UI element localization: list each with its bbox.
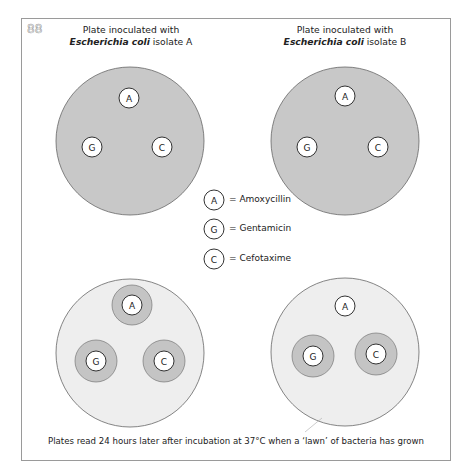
legend-disk-c: C: [204, 249, 224, 269]
legend-disk-a: A: [204, 190, 224, 210]
disk-amoxycillin-no-zone: A: [335, 296, 355, 316]
legend-disk-g: G: [204, 219, 224, 239]
svg-text:A: A: [129, 301, 136, 311]
svg-text:C: C: [375, 143, 381, 153]
svg-text:G: G: [93, 357, 100, 367]
legend-amoxycillin: = Amoxycillin: [229, 194, 291, 204]
plate-a-initial: A G C: [56, 67, 204, 215]
disk-cefotaxime: C: [368, 137, 388, 157]
zone-cefotaxime: C: [355, 333, 397, 375]
disk-gentamicin: G: [297, 137, 317, 157]
svg-text:G: G: [304, 143, 311, 153]
zone-gentamicin: G: [292, 335, 334, 377]
disk-cefotaxime: C: [152, 137, 172, 157]
plate-a-result: A G C: [56, 279, 204, 427]
svg-text:C: C: [161, 357, 167, 367]
legend-gentamicin: = Gentamicin: [229, 223, 291, 233]
zone-amoxycillin: A: [112, 285, 152, 325]
svg-text:C: C: [159, 143, 165, 153]
disk-amoxycillin: A: [335, 86, 355, 106]
svg-text:A: A: [342, 302, 349, 312]
svg-text:A: A: [126, 94, 133, 104]
svg-text:C: C: [373, 350, 379, 360]
leader-line: [305, 418, 322, 432]
zone-cefotaxime: C: [143, 340, 185, 382]
zone-gentamicin: G: [75, 340, 117, 382]
disk-gentamicin: G: [82, 137, 102, 157]
plates-diagram: A G C A G C A G: [0, 0, 458, 476]
figure-caption: Plates read 24 hours later after incubat…: [21, 436, 451, 446]
plate-b-initial: A G C: [271, 67, 419, 215]
plate-b-result: A G C: [271, 278, 419, 432]
disk-amoxycillin: A: [119, 88, 139, 108]
svg-text:G: G: [310, 352, 317, 362]
svg-text:G: G: [211, 225, 218, 235]
svg-text:G: G: [89, 143, 96, 153]
svg-text:A: A: [211, 196, 218, 206]
legend-cefotaxime: = Cefotaxime: [229, 253, 291, 263]
svg-text:C: C: [211, 255, 217, 265]
svg-text:A: A: [342, 92, 349, 102]
